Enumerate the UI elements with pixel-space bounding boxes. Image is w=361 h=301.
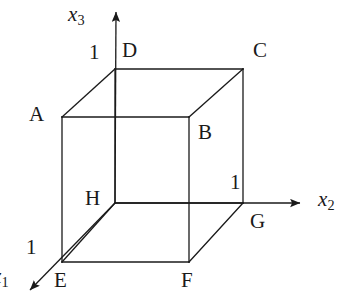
x1-axis-line — [30, 203, 115, 290]
cube-edges — [62, 69, 243, 262]
vertex-label-a: A — [29, 104, 44, 125]
vertex-label-c: C — [253, 40, 267, 61]
edge-f-g — [189, 203, 243, 262]
cube-diagram-svg — [0, 0, 361, 301]
tick-label-x1: 1 — [26, 237, 37, 258]
vertex-label-b: B — [198, 122, 212, 143]
x3-axis-line — [115, 12, 116, 203]
vertex-label-d: D — [122, 40, 137, 61]
edge-d-a — [62, 69, 115, 117]
vertex-label-g: G — [250, 211, 265, 232]
figure-canvas: A B C D E F G H 1 1 1 x1 x2 x3 — [0, 0, 361, 301]
vertex-label-e: E — [54, 270, 67, 291]
axis-label-x2: x2 — [318, 189, 335, 212]
vertex-label-f: F — [181, 270, 193, 291]
edge-b-c — [189, 69, 243, 117]
tick-label-x2: 1 — [230, 172, 241, 193]
axis-label-x1: x1 — [0, 266, 9, 289]
vertex-label-h: H — [85, 188, 100, 209]
axis-label-x3: x3 — [68, 4, 85, 27]
tick-label-x3: 1 — [89, 42, 100, 63]
